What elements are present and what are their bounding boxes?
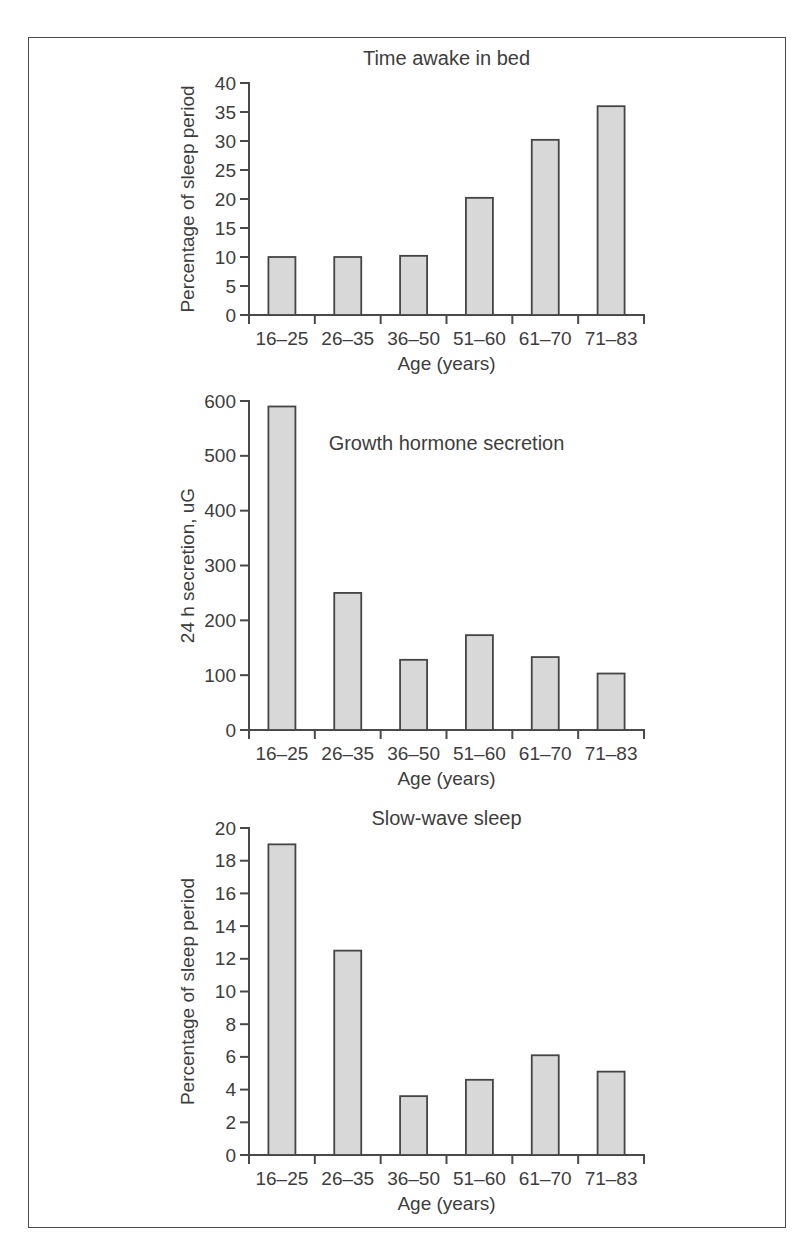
x-tick-label: 71–83: [585, 1168, 638, 1189]
x-tick-label: 71–83: [585, 328, 638, 349]
y-tick-label: 2: [225, 1112, 236, 1133]
x-tick-label: 26–35: [321, 743, 374, 764]
y-tick-label: 400: [204, 500, 236, 521]
x-tick-label: 51–60: [453, 1168, 506, 1189]
x-tick-label: 71–83: [585, 743, 638, 764]
y-tick-label: 10: [215, 247, 236, 268]
y-tick-label: 500: [204, 445, 236, 466]
x-axis-title: Age (years): [397, 353, 495, 374]
scanned-figure-page: 051015202530354016–2526–3536–5051–6061–7…: [0, 0, 809, 1254]
bar-61-70: [532, 1055, 559, 1155]
x-axis-title: Age (years): [397, 768, 495, 789]
y-axis-title: 24 h secretion, uG: [177, 488, 198, 643]
bar-36-50: [400, 1096, 427, 1155]
y-tick-label: 0: [225, 305, 236, 326]
x-tick-label: 36–50: [387, 743, 440, 764]
x-tick-label: 36–50: [387, 1168, 440, 1189]
y-tick-label: 14: [215, 916, 237, 937]
bar-71-83: [598, 1072, 625, 1155]
y-tick-label: 100: [204, 665, 236, 686]
y-tick-label: 8: [225, 1014, 236, 1035]
bar-71-83: [598, 106, 625, 315]
y-tick-label: 6: [225, 1046, 236, 1067]
chart-title: Time awake in bed: [363, 47, 530, 69]
y-tick-label: 300: [204, 555, 236, 576]
bar-51-60: [466, 635, 493, 730]
bar-51-60: [466, 198, 493, 315]
x-tick-label: 51–60: [453, 328, 506, 349]
y-tick-label: 10: [215, 981, 236, 1002]
x-tick-label: 61–70: [519, 328, 572, 349]
y-axis-title: Percentage of sleep period: [177, 878, 198, 1105]
chart-title: Slow-wave sleep: [371, 807, 521, 829]
y-tick-label: 20: [215, 189, 236, 210]
x-axis-title: Age (years): [397, 1193, 495, 1214]
y-tick-label: 0: [225, 720, 236, 741]
bar-chart-slow-wave-sleep: 0246810121416182016–2526–3536–5051–6061–…: [29, 795, 787, 1228]
y-tick-label: 30: [215, 131, 236, 152]
bar-chart-time-awake-in-bed: 051015202530354016–2526–3536–5051–6061–7…: [29, 38, 787, 380]
y-tick-label: 40: [215, 73, 236, 94]
bar-16-25: [268, 257, 295, 315]
y-tick-label: 25: [215, 160, 236, 181]
x-tick-label: 51–60: [453, 743, 506, 764]
x-tick-label: 36–50: [387, 328, 440, 349]
y-tick-label: 600: [204, 391, 236, 412]
x-tick-label: 61–70: [519, 1168, 572, 1189]
bar-16-25: [268, 406, 295, 730]
figure-frame: 051015202530354016–2526–3536–5051–6061–7…: [28, 37, 786, 1228]
y-tick-label: 0: [225, 1145, 236, 1166]
bar-71-83: [598, 674, 625, 730]
bar-26-35: [334, 593, 361, 730]
bar-26-35: [334, 257, 361, 315]
y-tick-label: 12: [215, 948, 236, 969]
y-tick-label: 20: [215, 818, 236, 839]
y-axis-title: Percentage of sleep period: [177, 85, 198, 312]
bar-36-50: [400, 660, 427, 730]
chart-title: Growth hormone secretion: [329, 432, 565, 454]
y-tick-label: 35: [215, 102, 236, 123]
x-tick-label: 16–25: [255, 743, 308, 764]
y-tick-label: 4: [225, 1079, 236, 1100]
bar-61-70: [532, 657, 559, 730]
bar-61-70: [532, 140, 559, 315]
bar-36-50: [400, 256, 427, 315]
x-tick-label: 26–35: [321, 1168, 374, 1189]
bar-16-25: [268, 844, 295, 1155]
y-tick-label: 15: [215, 218, 236, 239]
x-tick-label: 16–25: [255, 328, 308, 349]
x-tick-label: 26–35: [321, 328, 374, 349]
x-tick-label: 61–70: [519, 743, 572, 764]
y-tick-label: 16: [215, 883, 236, 904]
y-tick-label: 200: [204, 610, 236, 631]
bar-51-60: [466, 1080, 493, 1155]
bar-26-35: [334, 951, 361, 1155]
y-tick-label: 5: [225, 276, 236, 297]
x-tick-label: 16–25: [255, 1168, 308, 1189]
y-tick-label: 18: [215, 850, 236, 871]
bar-chart-growth-hormone-secretion: 010020030040050060016–2526–3536–5051–606…: [29, 380, 787, 795]
